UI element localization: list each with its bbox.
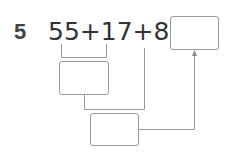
connector-lines xyxy=(0,0,232,161)
arrow-up-icon xyxy=(192,50,197,56)
